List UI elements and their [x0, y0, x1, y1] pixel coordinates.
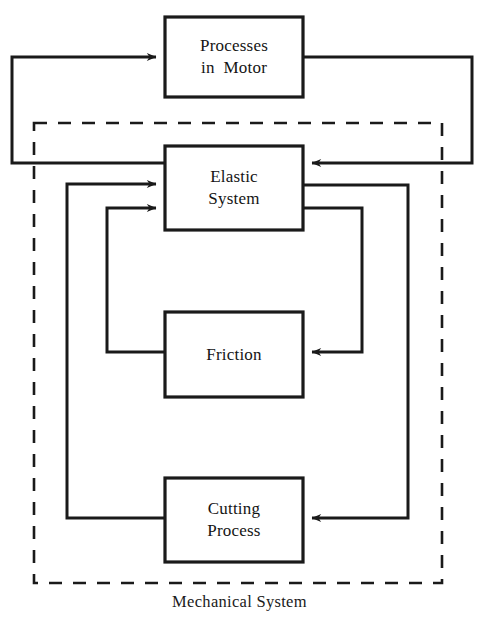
mechanical-system-caption: Mechanical System [0, 592, 479, 612]
block-elastic-system[interactable] [165, 146, 303, 230]
diagram-canvas: Processes in Motor Elastic System Fricti… [0, 0, 479, 632]
connector-processes-to-elastic [303, 57, 472, 163]
block-processes-in-motor[interactable] [165, 17, 303, 97]
block-cutting-process[interactable] [165, 478, 303, 562]
diagram-svg [0, 0, 479, 632]
block-friction[interactable] [165, 312, 303, 397]
connector-elastic-to-friction [303, 208, 362, 352]
connector-friction-to-elastic [107, 208, 165, 352]
